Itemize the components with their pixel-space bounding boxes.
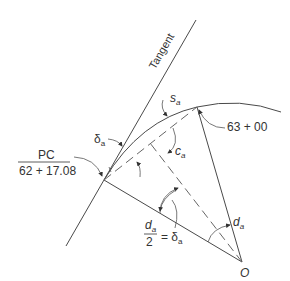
c-a-label: ca [175,144,186,160]
delta-leader [108,139,122,146]
station-leader [199,110,225,128]
chord-line [104,107,197,180]
half-d-numerator: da [145,218,157,234]
tangent-label: Tangent [146,31,176,71]
half-d-leader [172,200,177,228]
pc-station: 62 + 17.08 [19,164,76,178]
d-arc [208,225,230,242]
half-d-arc [160,188,178,213]
half-d-equals-delta: = δa [161,230,183,246]
curve-arc [104,103,281,180]
station-label: 63 + 00 [227,120,268,134]
delta-a-label: δa [94,132,106,148]
bisector-line [150,143,242,262]
pc-title: PC [38,148,55,162]
half-d-denominator: 2 [146,235,153,249]
d-a-label: da [233,215,245,231]
s-leader [162,100,167,116]
center-label: O [240,266,249,280]
c-leader-2 [137,162,140,177]
s-a-label: sa [170,91,181,107]
pc-leader [74,157,102,176]
curve-diagram: Tangent sa ca δa PC 62 + 17.08 63 + 00 d… [0,0,290,281]
